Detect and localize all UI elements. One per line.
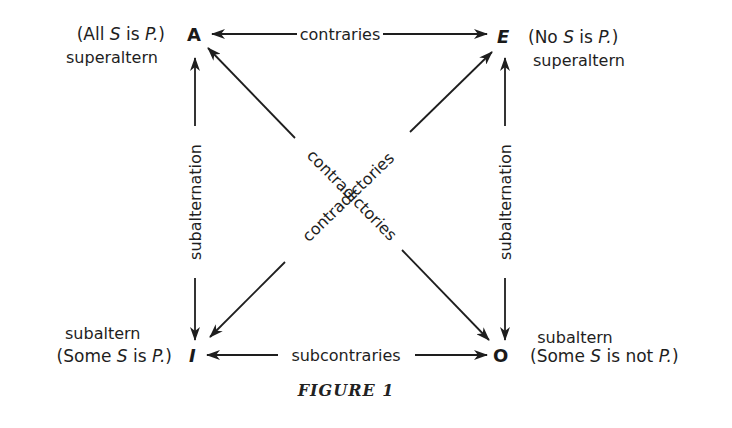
corner-a: (All S is P.) A superaltern — [66, 24, 201, 67]
label-contraries: contraries — [300, 25, 381, 44]
role-o: subaltern — [537, 328, 612, 347]
arrow-down-right-icon — [402, 250, 489, 340]
arrow-down-left-icon — [210, 262, 285, 337]
arrow-up-left-icon — [208, 48, 295, 138]
corner-e: E (No S is P.) superaltern — [497, 26, 625, 70]
relation-subalternation-right: subalternation — [496, 58, 515, 340]
relation-subalternation-left: subalternation — [186, 58, 205, 340]
relation-contraries: contraries — [212, 25, 487, 44]
role-a: superaltern — [66, 48, 158, 67]
label-subalternation-right: subalternation — [496, 144, 515, 260]
proposition-o: (Some S is not P.) — [530, 346, 679, 366]
proposition-e: (No S is P.) — [528, 27, 618, 47]
arrow-up-right-icon — [410, 52, 492, 132]
relation-subcontraries: subcontraries — [207, 346, 487, 365]
letter-a: A — [187, 24, 201, 45]
corner-o: O subaltern (Some S is not P.) — [493, 328, 679, 366]
corner-i: subaltern (Some S is P.) I — [57, 324, 196, 366]
role-e: superaltern — [533, 51, 625, 70]
proposition-i: (Some S is P.) — [57, 346, 172, 366]
figure-caption: FIGURE 1 — [297, 381, 395, 400]
letter-e: E — [497, 26, 510, 47]
square-of-opposition-diagram: (All S is P.) A superaltern E (No S is P… — [0, 0, 732, 428]
role-i: subaltern — [65, 324, 140, 343]
proposition-a: (All S is P.) — [77, 24, 165, 44]
letter-i: I — [189, 345, 196, 366]
label-subalternation-left: subalternation — [186, 144, 205, 260]
letter-o: O — [493, 345, 508, 366]
label-subcontraries: subcontraries — [291, 346, 400, 365]
